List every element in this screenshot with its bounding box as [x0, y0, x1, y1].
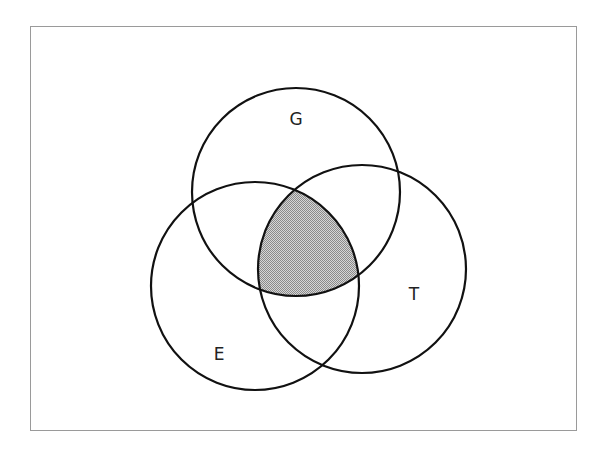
venn-diagram: G E T [0, 0, 607, 451]
set-label-g: G [289, 109, 302, 129]
set-label-e: E [214, 344, 225, 364]
set-label-t: T [408, 284, 420, 304]
